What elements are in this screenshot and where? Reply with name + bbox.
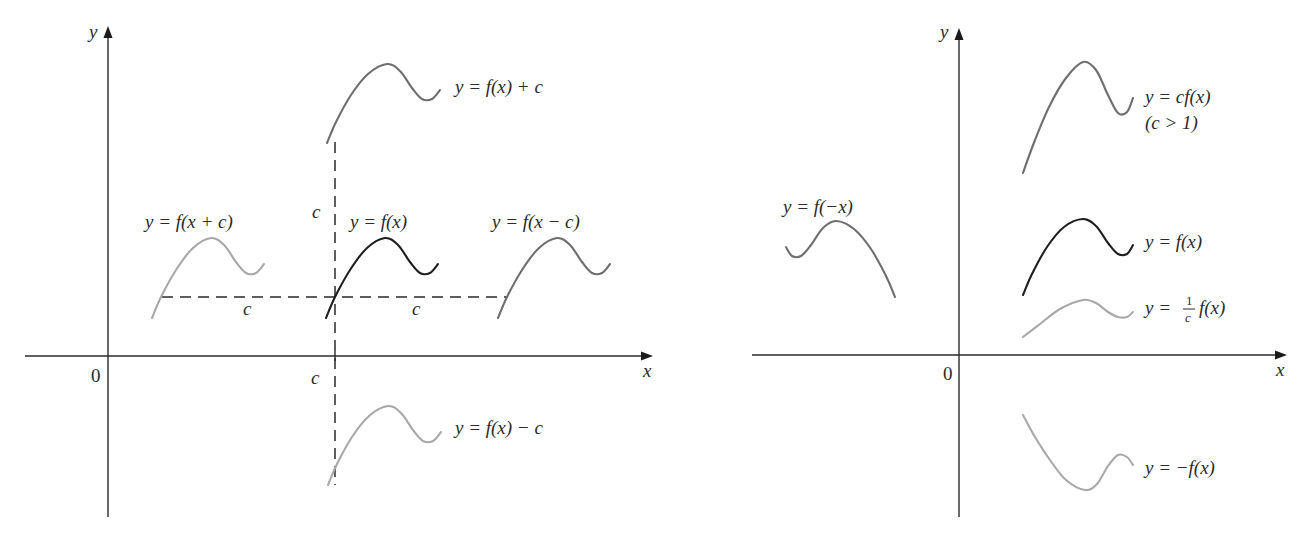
right-y-axis-arrow-icon xyxy=(955,28,964,40)
label-inv-c-f-x: y = 1 c f(x) xyxy=(1143,293,1225,325)
label-axis-c: c xyxy=(311,367,320,388)
label-f-minus-c: y = f(x) − c xyxy=(453,417,543,439)
left-y-axis-label: y xyxy=(87,21,98,42)
label-right-shift-c: c xyxy=(412,298,421,319)
label-inv-c-suffix: f(x) xyxy=(1199,297,1225,319)
curve-f-x-minus-c xyxy=(498,238,610,318)
function-transformations-figure: y x 0 y = f(x + c) y = f(x) y = f(x − c)… xyxy=(0,0,1316,544)
label-f-x-minus-c: y = f(x − c) xyxy=(490,211,580,233)
label-f-x-plus-c: y = f(x + c) xyxy=(143,211,233,233)
left-y-axis-arrow-icon xyxy=(104,26,113,38)
label-vertical-shift-c: c xyxy=(312,201,321,222)
curve-cf-x xyxy=(1023,62,1133,173)
label-f-x-right: y = f(x) xyxy=(1143,231,1202,253)
label-cf-condition: (c > 1) xyxy=(1145,112,1198,134)
label-inv-c-denominator: c xyxy=(1185,310,1191,325)
label-inv-c-numerator: 1 xyxy=(1186,293,1193,308)
label-cf-x: y = cf(x) xyxy=(1143,86,1211,108)
right-x-axis-label: x xyxy=(1275,359,1285,380)
left-panel-shifts: y x 0 y = f(x + c) y = f(x) y = f(x − c)… xyxy=(25,21,653,517)
right-y-axis-label: y xyxy=(938,21,949,42)
curve-f-plus-c xyxy=(327,64,440,143)
curve-neg-f-x xyxy=(1023,415,1133,490)
label-f-x: y = f(x) xyxy=(348,211,407,233)
label-left-shift-c: c xyxy=(243,298,252,319)
curve-f-x-base-right xyxy=(1023,219,1133,295)
label-f-plus-c: y = f(x) + c xyxy=(453,76,543,98)
curve-f-neg-x xyxy=(786,221,895,297)
label-neg-f-x: y = −f(x) xyxy=(1143,457,1215,479)
left-origin-label: 0 xyxy=(91,365,101,386)
right-origin-label: 0 xyxy=(943,363,953,384)
label-f-neg-x: y = f(−x) xyxy=(781,196,853,218)
label-inv-c-prefix: y = xyxy=(1143,297,1171,318)
curve-f-minus-c xyxy=(328,406,441,485)
curve-inv-c-f-x xyxy=(1023,300,1133,337)
right-panel-reflections-stretches: y x 0 y = f(−x) y = cf(x) (c > 1) y = f(… xyxy=(752,21,1287,517)
curve-f-x-base xyxy=(326,238,438,318)
left-x-axis-label: x xyxy=(642,360,652,381)
